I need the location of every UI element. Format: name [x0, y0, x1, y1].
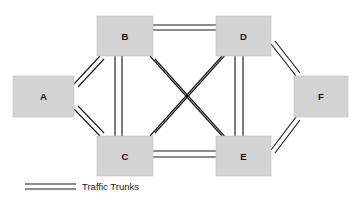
node-box[interactable] [294, 76, 348, 117]
trunk-link-e-f [271, 117, 300, 153]
network-node-e[interactable]: E [216, 136, 271, 176]
trunk-strand-2 [275, 41, 300, 73]
legend-trunk-swatch [25, 184, 76, 189]
network-topology-canvas: ABCDEF Traffic Trunks [0, 0, 361, 201]
node-box[interactable] [216, 136, 271, 176]
trunk-strand-2 [275, 120, 300, 153]
trunk-strand-1 [271, 117, 296, 150]
trunk-strand-2 [78, 106, 104, 133]
network-node-d[interactable]: D [216, 16, 271, 56]
trunk-link-d-e [235, 56, 243, 136]
legend-label: Traffic Trunks [82, 181, 139, 192]
trunk-link-d-f [271, 41, 300, 76]
node-box[interactable] [97, 136, 153, 176]
node-box[interactable] [13, 76, 74, 117]
trunk-strand-1 [74, 56, 100, 84]
node-box[interactable] [97, 16, 153, 56]
trunk-link-a-b [74, 56, 104, 87]
trunk-strand-2 [78, 59, 104, 87]
trunk-strand-1 [271, 44, 296, 76]
network-node-b[interactable]: B [97, 16, 153, 56]
legend: Traffic Trunks [25, 181, 139, 192]
trunk-link-b-c [115, 56, 122, 136]
trunk-strand-1 [74, 109, 100, 136]
network-nodes-layer: ABCDEF [13, 16, 348, 176]
trunk-link-c-e [153, 151, 216, 157]
trunk-strand-2 [155, 53, 227, 133]
trunk-link-a-c [74, 106, 104, 136]
network-node-c[interactable]: C [97, 136, 153, 176]
network-node-f[interactable]: F [294, 76, 348, 117]
trunk-link-b-d [153, 25, 216, 30]
trunk-strand-2 [155, 59, 227, 139]
network-node-a[interactable]: A [13, 76, 74, 117]
network-diagram: ABCDEF Traffic Trunks [0, 0, 361, 201]
node-box[interactable] [216, 16, 271, 56]
